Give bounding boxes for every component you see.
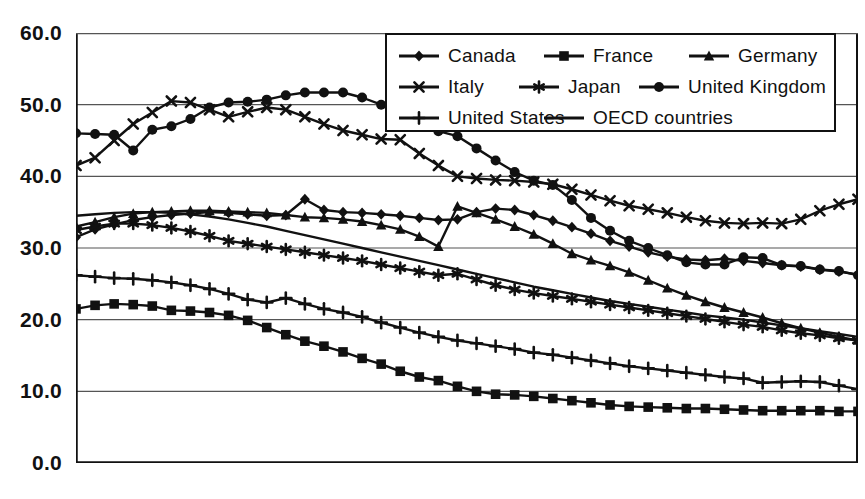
marker-circle	[281, 90, 291, 100]
marker-circle	[262, 95, 272, 105]
marker-circle	[76, 128, 81, 138]
legend-item-france[interactable]: France	[542, 45, 687, 67]
series-canada	[76, 194, 858, 280]
marker-circle	[662, 250, 672, 260]
marker-square	[472, 387, 482, 397]
y-axis-tick-label: 20.0	[20, 308, 62, 332]
marker-square	[605, 400, 615, 410]
marker-square	[395, 366, 405, 376]
marker-circle	[586, 213, 596, 223]
marker-square	[853, 407, 858, 417]
marker-circle	[681, 257, 691, 267]
marker-square	[453, 382, 463, 392]
marker-diamond	[433, 215, 443, 226]
y-axis-labels: 60.050.040.030.020.010.00.0	[0, 0, 62, 499]
marker-square	[559, 51, 569, 61]
marker-square	[147, 301, 157, 311]
marker-circle	[739, 252, 749, 262]
y-axis-tick-label: 0.0	[32, 451, 62, 475]
marker-square	[624, 402, 634, 412]
marker-square	[415, 372, 425, 382]
marker-square	[90, 301, 100, 311]
marker-circle	[205, 103, 215, 113]
marker-square	[529, 392, 539, 402]
marker-diamond	[567, 222, 577, 233]
legend-symbol-asterisk	[517, 76, 561, 98]
marker-square	[720, 404, 730, 414]
legend-item-label: Germany	[738, 45, 818, 67]
marker-square	[186, 306, 196, 316]
marker-square	[300, 336, 310, 346]
marker-square	[567, 396, 577, 406]
marker-square	[739, 405, 749, 415]
marker-square	[491, 389, 501, 399]
legend-item-label: Canada	[448, 45, 516, 67]
legend-item-label: OECD countries	[593, 107, 733, 129]
marker-circle	[624, 236, 634, 246]
marker-circle	[777, 260, 787, 270]
legend-item-japan[interactable]: Japan	[517, 76, 637, 98]
legend-item-oecd-countries[interactable]: OECD countries	[542, 107, 687, 129]
marker-square	[777, 406, 787, 416]
marker-triangle	[567, 248, 577, 258]
marker-circle	[128, 146, 138, 156]
legend-item-italy[interactable]: Italy	[397, 76, 517, 98]
marker-square	[815, 406, 825, 416]
legend-row: ItalyJapanUnited Kingdom	[397, 71, 826, 102]
marker-square	[434, 376, 444, 386]
legend-item-label: France	[593, 45, 653, 67]
marker-square	[338, 347, 348, 357]
marker-diamond	[510, 205, 520, 216]
marker-square	[357, 354, 367, 364]
marker-square	[262, 323, 272, 333]
marker-circle	[700, 259, 710, 269]
legend-row: CanadaFranceGermany	[397, 40, 826, 71]
marker-square	[76, 304, 81, 314]
marker-circle	[338, 87, 348, 97]
marker-circle	[719, 259, 729, 269]
marker-circle	[796, 261, 806, 271]
marker-diamond	[605, 235, 615, 246]
legend-item-united-states[interactable]: United States	[397, 107, 542, 129]
legend-symbol-diamond	[397, 45, 441, 67]
marker-diamond	[529, 210, 539, 221]
marker-circle	[654, 82, 664, 92]
y-axis-tick-label: 60.0	[20, 21, 62, 45]
marker-circle	[491, 156, 501, 166]
marker-circle	[319, 87, 329, 97]
y-axis-tick-label: 40.0	[20, 164, 62, 188]
marker-square	[243, 316, 253, 326]
series-japan	[76, 218, 858, 346]
marker-square	[758, 406, 768, 416]
marker-square	[224, 311, 234, 321]
marker-circle	[357, 93, 367, 103]
marker-circle	[815, 265, 825, 275]
legend-symbol-none	[542, 107, 586, 129]
marker-circle	[166, 121, 176, 131]
chart-legend: CanadaFranceGermanyItalyJapanUnited King…	[385, 33, 836, 132]
legend-item-label: United Kingdom	[688, 76, 826, 98]
legend-item-united-kingdom[interactable]: United Kingdom	[637, 76, 826, 98]
marker-circle	[472, 143, 482, 153]
marker-square	[662, 403, 672, 413]
marker-circle	[300, 87, 310, 97]
marker-square	[205, 308, 215, 318]
marker-circle	[529, 176, 539, 186]
marker-square	[586, 398, 596, 408]
marker-square	[319, 341, 329, 351]
marker-circle	[90, 129, 100, 139]
marker-square	[548, 394, 558, 404]
marker-square	[128, 300, 138, 310]
legend-symbol-x	[397, 76, 441, 98]
marker-diamond	[376, 209, 386, 220]
marker-triangle	[452, 201, 462, 211]
y-axis-tick-label: 50.0	[20, 93, 62, 117]
marker-triangle	[433, 241, 443, 251]
legend-item-germany[interactable]: Germany	[687, 45, 818, 67]
marker-diamond	[414, 50, 424, 61]
marker-circle	[853, 270, 858, 280]
marker-circle	[185, 114, 195, 124]
legend-item-canada[interactable]: Canada	[397, 45, 542, 67]
marker-diamond	[491, 203, 501, 214]
marker-square	[834, 407, 844, 417]
